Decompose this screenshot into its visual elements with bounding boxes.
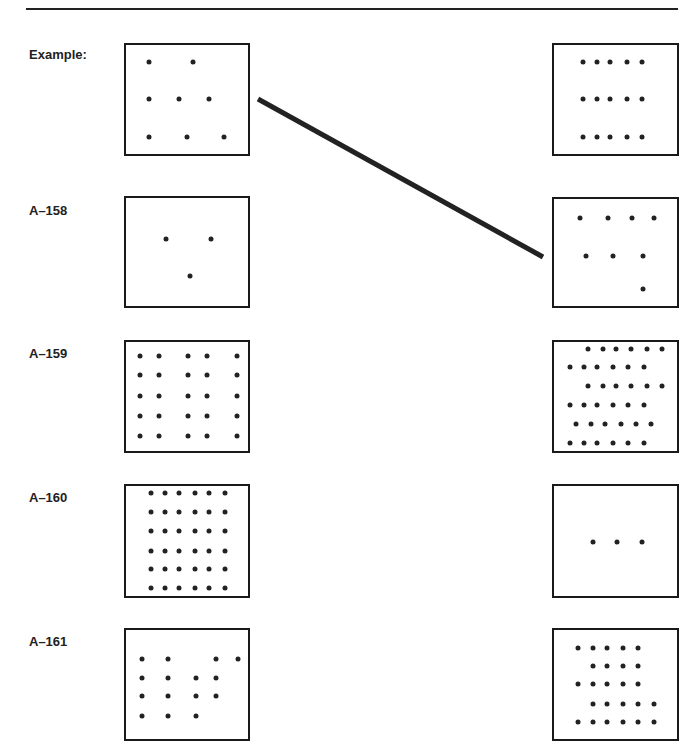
dot-icon: [608, 60, 613, 65]
dot-icon: [636, 720, 641, 725]
dot-icon: [223, 510, 228, 515]
right-dot-box[interactable]: [552, 43, 679, 156]
dot-icon: [235, 394, 240, 399]
dot-icon: [645, 384, 650, 389]
dot-icon: [166, 714, 171, 719]
item-label: Example:: [29, 47, 87, 62]
dot-icon: [157, 354, 162, 359]
dot-icon: [140, 657, 145, 662]
dot-icon: [642, 403, 647, 408]
dot-icon: [629, 384, 634, 389]
dot-icon: [601, 384, 606, 389]
dot-icon: [601, 347, 606, 352]
dot-icon: [177, 586, 182, 591]
dot-icon: [574, 422, 579, 427]
dot-icon: [157, 414, 162, 419]
dot-icon: [149, 549, 154, 554]
dot-icon: [223, 529, 228, 534]
dot-icon: [138, 373, 143, 378]
dot-icon: [147, 60, 152, 65]
dot-icon: [207, 510, 212, 515]
dot-icon: [140, 694, 145, 699]
dot-icon: [608, 97, 613, 102]
dot-icon: [214, 676, 219, 681]
dot-icon: [235, 354, 240, 359]
dot-icon: [177, 491, 182, 496]
dot-icon: [568, 365, 573, 370]
dot-icon: [605, 682, 610, 687]
dot-icon: [606, 216, 611, 221]
dot-icon: [589, 422, 594, 427]
dot-icon: [163, 510, 168, 515]
dot-icon: [652, 702, 657, 707]
right-dot-box[interactable]: [552, 628, 679, 741]
dot-icon: [205, 414, 210, 419]
dot-icon: [157, 373, 162, 378]
dot-icon: [591, 720, 596, 725]
right-dot-box[interactable]: [552, 197, 679, 308]
dot-icon: [207, 97, 212, 102]
dot-icon: [608, 135, 613, 140]
dot-icon: [634, 422, 639, 427]
dot-icon: [188, 274, 193, 279]
dot-icon: [164, 237, 169, 242]
dot-icon: [605, 702, 610, 707]
item-label: A–161: [29, 634, 67, 649]
dot-icon: [185, 135, 190, 140]
dot-icon: [660, 384, 665, 389]
dot-icon: [582, 365, 587, 370]
dot-icon: [235, 414, 240, 419]
dot-icon: [191, 60, 196, 65]
right-dot-box[interactable]: [552, 484, 679, 598]
dot-icon: [576, 646, 581, 651]
dot-icon: [642, 441, 647, 446]
dot-icon: [640, 60, 645, 65]
dot-icon: [605, 664, 610, 669]
dot-icon: [645, 347, 650, 352]
dot-icon: [177, 549, 182, 554]
dot-icon: [591, 702, 596, 707]
left-dot-box[interactable]: [124, 484, 250, 598]
item-label: A–159: [29, 346, 67, 361]
dot-icon: [207, 491, 212, 496]
dot-icon: [205, 373, 210, 378]
dot-icon: [194, 694, 199, 699]
dot-icon: [186, 434, 191, 439]
dot-icon: [581, 97, 586, 102]
dot-icon: [149, 510, 154, 515]
dot-icon: [157, 434, 162, 439]
left-dot-box[interactable]: [124, 340, 250, 453]
left-dot-box[interactable]: [124, 628, 250, 741]
dot-icon: [223, 586, 228, 591]
dot-icon: [603, 422, 608, 427]
dot-icon: [621, 682, 626, 687]
dot-icon: [207, 586, 212, 591]
dot-icon: [193, 567, 198, 572]
dot-icon: [166, 676, 171, 681]
dot-icon: [163, 491, 168, 496]
right-dot-box[interactable]: [552, 340, 679, 453]
dot-icon: [214, 694, 219, 699]
left-dot-box[interactable]: [124, 196, 250, 308]
dot-icon: [584, 254, 589, 259]
dot-icon: [595, 441, 600, 446]
dot-icon: [649, 422, 654, 427]
dot-icon: [595, 97, 600, 102]
dot-icon: [163, 549, 168, 554]
dot-icon: [581, 60, 586, 65]
dot-icon: [214, 657, 219, 662]
dot-icon: [611, 403, 616, 408]
dot-icon: [149, 567, 154, 572]
dot-icon: [186, 414, 191, 419]
dot-icon: [591, 540, 596, 545]
dot-icon: [140, 714, 145, 719]
dot-icon: [177, 567, 182, 572]
dot-icon: [166, 694, 171, 699]
dot-icon: [205, 354, 210, 359]
dot-icon: [149, 586, 154, 591]
dot-icon: [163, 529, 168, 534]
dot-icon: [166, 657, 171, 662]
dot-icon: [595, 135, 600, 140]
dot-icon: [138, 394, 143, 399]
left-dot-box[interactable]: [124, 43, 250, 156]
